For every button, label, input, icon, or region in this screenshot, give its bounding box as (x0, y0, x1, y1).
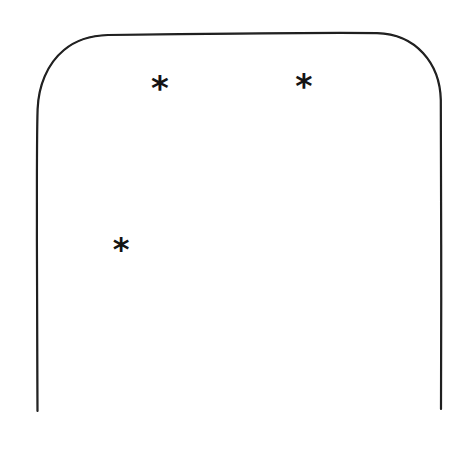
drawing-canvas: * * * (0, 0, 459, 456)
asterisk-mark-1: * (151, 71, 169, 105)
arch-outline-group (37, 33, 441, 411)
asterisk-mark-2: * (295, 70, 312, 103)
arch-outline-path (37, 33, 441, 411)
arch-outline-figure (0, 0, 459, 456)
arch-outline-ink-overlay (37, 33, 441, 411)
asterisk-mark-3: * (113, 233, 130, 265)
